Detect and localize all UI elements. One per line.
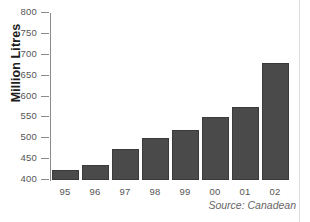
- y-axis-tick-label: 650: [0, 69, 37, 80]
- y-axis-tick-mark: [41, 116, 49, 117]
- bar: [232, 107, 259, 180]
- bar: [82, 165, 109, 180]
- y-axis-tick-mark: [41, 54, 49, 55]
- y-axis-tick-mark: [41, 96, 49, 97]
- y-axis-tick-label: 450: [0, 152, 37, 163]
- y-axis-title: Million Litres: [9, 3, 23, 123]
- bar: [262, 63, 289, 180]
- y-axis-tick-mark: [41, 33, 49, 34]
- y-axis-tick-mark: [41, 158, 49, 159]
- bar: [142, 138, 169, 180]
- y-axis-tick-label: 750: [0, 27, 37, 38]
- chart-frame-edge: [299, 0, 300, 222]
- x-axis-label: 01: [230, 186, 260, 197]
- source-note: Source: Canadean: [208, 199, 296, 211]
- bar: [112, 149, 139, 180]
- plot-area: [50, 13, 290, 180]
- bar: [172, 130, 199, 180]
- y-axis-tick-mark: [41, 137, 49, 138]
- bar: [52, 170, 79, 180]
- x-axis-label: 97: [110, 186, 140, 197]
- x-axis-label: 98: [140, 186, 170, 197]
- bar-chart: Million Litres 4004505005506006507007508…: [0, 0, 310, 222]
- x-axis-label: 95: [50, 186, 80, 197]
- x-axis-label: 00: [200, 186, 230, 197]
- y-axis-tick-mark: [41, 179, 49, 180]
- bar: [202, 117, 229, 180]
- y-axis-tick-label: 550: [0, 110, 37, 121]
- y-axis-tick-mark: [41, 75, 49, 76]
- y-axis-tick-label: 400: [0, 173, 37, 184]
- x-axis-label: 02: [260, 186, 290, 197]
- y-axis-tick-label: 500: [0, 131, 37, 142]
- y-axis-tick-label: 700: [0, 48, 37, 59]
- x-axis-label: 99: [170, 186, 200, 197]
- y-axis-tick-label: 600: [0, 90, 37, 101]
- y-axis-tick-label: 800: [0, 6, 37, 17]
- y-axis-tick-mark: [41, 12, 49, 13]
- x-axis-label: 96: [80, 186, 110, 197]
